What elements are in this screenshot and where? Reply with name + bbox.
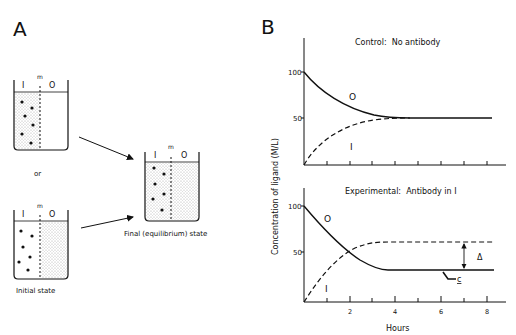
beaker3-label-I: I xyxy=(154,151,156,160)
c-label: c xyxy=(457,275,461,284)
beaker1-label-I: I xyxy=(22,81,24,90)
x-axis-label: Hours xyxy=(386,324,409,333)
beaker2-label-I: I xyxy=(22,210,24,219)
arrow-to-final-from-top xyxy=(79,137,133,159)
initial-state-label: Initial state xyxy=(16,287,55,295)
experimental-label-O: O xyxy=(324,214,331,224)
beaker-initial-outside-loaded xyxy=(14,210,68,279)
top-ytick-100: 100 xyxy=(288,69,301,77)
beaker2-label-m: m xyxy=(37,202,43,209)
control-title: Control: No antibody xyxy=(355,38,441,47)
experimental-curve-I xyxy=(304,242,494,302)
y-axis-label: Concentration of ligand (M/L) xyxy=(271,138,280,255)
bottom-ytick-100: 100 xyxy=(288,203,301,211)
control-label-O: O xyxy=(349,92,356,102)
beaker1-label-m: m xyxy=(37,73,43,80)
beaker1-label-O: O xyxy=(49,81,55,90)
figure-canvas: I m O I m O I m O xyxy=(0,0,516,335)
control-plot xyxy=(301,38,506,165)
control-label-I: I xyxy=(350,142,353,152)
beaker3-label-O: O xyxy=(181,151,187,160)
or-label: or xyxy=(34,170,41,178)
experimental-curve-O xyxy=(304,206,494,270)
arrow-to-final-from-bottom xyxy=(81,217,133,228)
delta-label: Δ xyxy=(477,253,483,262)
xtick-6: 6 xyxy=(439,308,443,316)
top-ytick-50: 50 xyxy=(293,115,302,123)
beaker-initial-inside-loaded xyxy=(14,80,68,150)
bottom-ytick-50: 50 xyxy=(293,249,302,257)
beaker2-label-O: O xyxy=(49,210,55,219)
experimental-title: Experimental: Antibody in I xyxy=(345,187,457,196)
xtick-4: 4 xyxy=(393,308,397,316)
final-state-label: Final (equilibrium) state xyxy=(124,230,207,238)
experimental-label-I: I xyxy=(325,284,328,294)
xtick-2: 2 xyxy=(348,308,352,316)
panel-b-letter: B xyxy=(261,15,275,39)
beaker-final-equilibrium xyxy=(145,152,199,221)
control-curve-I xyxy=(304,118,410,165)
experimental-plot xyxy=(301,188,506,302)
xtick-8: 8 xyxy=(485,308,489,316)
beaker3-label-m: m xyxy=(168,143,174,150)
control-curve-O xyxy=(304,72,492,118)
c-arrow xyxy=(443,272,456,279)
